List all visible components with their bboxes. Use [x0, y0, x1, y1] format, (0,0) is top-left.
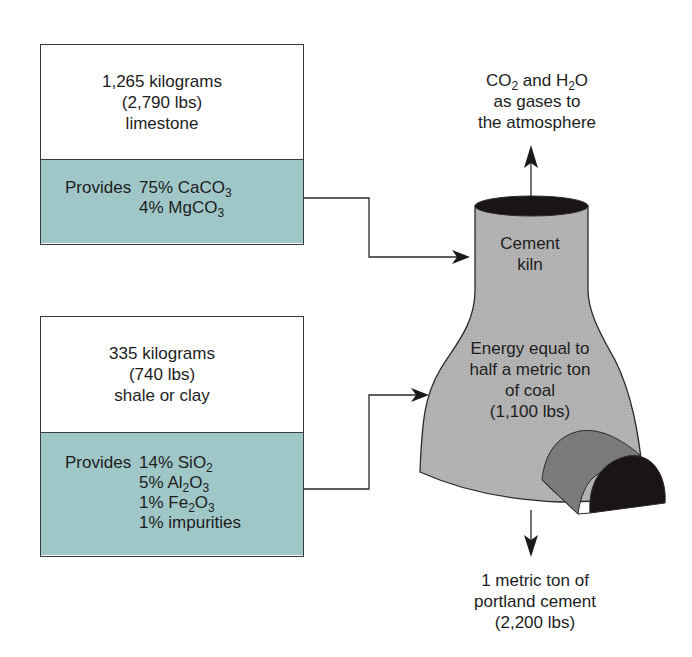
output-arrow [524, 510, 538, 557]
kiln-name-line-1: Cement [470, 233, 590, 254]
limestone-input-box: 1,265 kilograms (2,790 lbs) limestone Pr… [40, 44, 304, 245]
emissions-line-1: CO2 and H2O [452, 70, 622, 91]
shale-lbs: (740 lbs) [129, 364, 195, 385]
limestone-provides-list: 75% CaCO3 4% MgCO3 [139, 178, 232, 243]
provides-item: 4% MgCO3 [139, 198, 232, 218]
output-line-3: (2,200 lbs) [445, 612, 625, 633]
emissions-arrow [524, 145, 538, 198]
energy-line-3: of coal [440, 380, 620, 401]
provides-item: 1% Fe2O3 [139, 493, 241, 513]
kiln-name-line-2: kiln [470, 254, 590, 275]
emissions-line-3: the atmosphere [452, 112, 622, 133]
emissions-label: CO2 and H2O as gases to the atmosphere [452, 70, 622, 133]
emissions-line-2: as gases to [452, 91, 622, 112]
provides-item: 1% impurities [139, 513, 241, 533]
limestone-material: limestone [126, 113, 199, 134]
limestone-lbs: (2,790 lbs) [122, 92, 202, 113]
output-label: 1 metric ton of portland cement (2,200 l… [445, 570, 625, 633]
limestone-kg: 1,265 kilograms [102, 71, 222, 92]
shale-input-box: 335 kilograms (740 lbs) shale or clay Pr… [40, 316, 304, 557]
provides-item: 75% CaCO3 [139, 178, 232, 198]
limestone-connector [304, 198, 470, 264]
kiln-name-label: Cement kiln [470, 233, 590, 275]
output-line-2: portland cement [445, 591, 625, 612]
shale-connector [304, 388, 429, 489]
shale-material: shale or clay [114, 385, 209, 406]
shale-kg: 335 kilograms [109, 343, 215, 364]
provides-label: Provides [65, 178, 139, 243]
shale-amount: 335 kilograms (740 lbs) shale or clay [41, 317, 303, 433]
provides-item: 14% SiO2 [139, 453, 241, 473]
kiln-energy-label: Energy equal to half a metric ton of coa… [440, 338, 620, 422]
limestone-provides: Provides 75% CaCO3 4% MgCO3 [41, 160, 303, 243]
output-line-1: 1 metric ton of [445, 570, 625, 591]
energy-line-2: half a metric ton [440, 359, 620, 380]
limestone-amount: 1,265 kilograms (2,790 lbs) limestone [41, 45, 303, 160]
provides-label: Provides [65, 453, 139, 555]
provides-item: 5% Al2O3 [139, 473, 241, 493]
energy-line-1: Energy equal to [440, 338, 620, 359]
shale-provides: Provides 14% SiO2 5% Al2O3 1% Fe2O3 1% i… [41, 433, 303, 555]
shale-provides-list: 14% SiO2 5% Al2O3 1% Fe2O3 1% impurities [139, 453, 241, 555]
energy-line-4: (1,100 lbs) [440, 401, 620, 422]
